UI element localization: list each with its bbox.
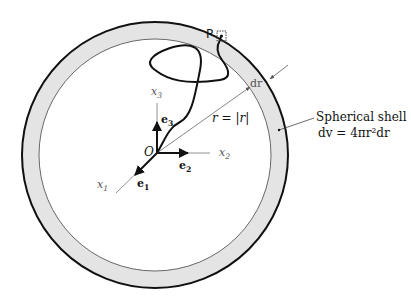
spherical-shell-diagram: P dr r = |r| x3 x2 x1 e3 e2 e1 O Spheric… — [0, 0, 411, 305]
x1-label: x1 — [97, 179, 108, 193]
e1-label: e1 — [137, 178, 149, 192]
e3-label: e3 — [161, 114, 173, 128]
shell-formula: dv = 4πr²dr — [318, 127, 390, 139]
origin-label: O — [144, 146, 154, 158]
shell-label: Spherical shell — [316, 111, 407, 123]
dr-label: dr — [250, 78, 262, 89]
e2-label: e2 — [179, 160, 191, 174]
point-p-label: P — [206, 28, 213, 40]
x3-label: x3 — [151, 86, 162, 100]
diagram-graphics — [0, 0, 411, 305]
radius-label: r = |r| — [212, 112, 249, 124]
dr-arrow — [270, 65, 288, 79]
x2-label: x2 — [219, 147, 230, 161]
